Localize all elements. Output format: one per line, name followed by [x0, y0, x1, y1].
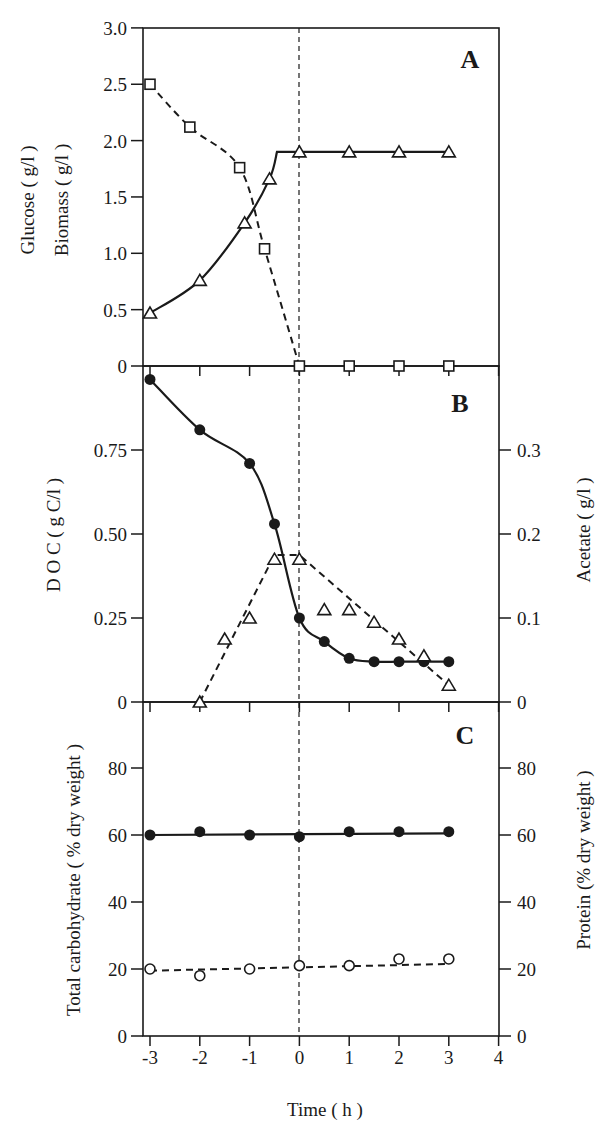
- open-square-marker: [294, 361, 304, 371]
- open-circle-marker: [245, 964, 255, 974]
- panel-frames: [143, 28, 499, 1036]
- filled-circle-marker: [443, 656, 454, 667]
- open-square-marker: [145, 79, 155, 89]
- y-tick-label-right: 0: [517, 1026, 527, 1047]
- y-tick-label-right: 0.2: [517, 524, 541, 545]
- open-square-marker: [185, 122, 195, 132]
- open-triangle-marker: [263, 173, 276, 184]
- filled-circle-marker: [194, 424, 205, 435]
- open-circle-marker: [294, 961, 304, 971]
- y-tick-label: 1.5: [103, 187, 127, 208]
- open-square-marker: [235, 163, 245, 173]
- open-circle-marker: [145, 964, 155, 974]
- panel-b-frame: [143, 366, 499, 702]
- panel-letter-a: A: [461, 45, 480, 74]
- y-tick-label: 2.0: [103, 131, 127, 152]
- panel-c-frame: [143, 702, 499, 1036]
- y-tick-label: 0: [118, 1026, 128, 1047]
- open-triangle-marker: [442, 679, 455, 690]
- open-circle-marker: [195, 971, 205, 981]
- filled-circle-marker: [394, 656, 405, 667]
- y-tick-label: 0.5: [103, 300, 127, 321]
- panel-a-ylabel-biomass: Biomass ( g/l ): [51, 144, 73, 256]
- filled-circle-marker: [344, 653, 355, 664]
- filled-circle-marker: [244, 458, 255, 469]
- y-tick-label: 20: [108, 959, 127, 980]
- y-tick-label: 80: [108, 758, 127, 779]
- figure: -3-2-10123400.51.01.52.02.53.000.250.500…: [0, 0, 608, 1134]
- panel-letter-c: C: [456, 721, 475, 750]
- filled-circle-marker: [394, 826, 405, 837]
- y-tick-label: 60: [108, 825, 127, 846]
- open-circle-marker: [344, 961, 354, 971]
- y-tick-label: 0: [118, 692, 128, 713]
- panel-c-ylabel-carbohydrate: Total carbohydrate ( % dry weight ): [63, 744, 85, 1016]
- filled-circle-marker: [443, 826, 454, 837]
- x-axis-label: Time ( h ): [287, 1099, 363, 1121]
- x-tick-label: 3: [444, 1047, 454, 1068]
- panel-b-ylabel-acetate: Acetate ( g/l ): [573, 478, 595, 583]
- open-triangle-marker: [417, 650, 430, 661]
- filled-circle-marker: [194, 826, 205, 837]
- open-triangle-marker: [218, 633, 231, 644]
- y-tick-label-right: 0.3: [517, 440, 541, 461]
- x-tick-label: 4: [494, 1047, 504, 1068]
- x-tick-label: -2: [192, 1047, 208, 1068]
- filled-circle-marker: [145, 374, 156, 385]
- acetate-line: [200, 555, 449, 702]
- panel-b-ylabel-doc: D O C ( g C/l ): [43, 478, 65, 592]
- open-square-marker: [260, 244, 270, 254]
- x-tick-label: 0: [295, 1047, 305, 1068]
- y-tick-label-right: 60: [517, 825, 536, 846]
- filled-circle-marker: [145, 830, 156, 841]
- y-tick-label-right: 20: [517, 959, 536, 980]
- filled-circle-marker: [369, 656, 380, 667]
- open-square-marker: [344, 361, 354, 371]
- y-tick-label: 1.0: [103, 243, 127, 264]
- filled-circle-marker: [319, 636, 330, 647]
- y-tick-label: 0: [118, 356, 128, 377]
- x-tick-label: -3: [142, 1047, 158, 1068]
- filled-circle-marker: [294, 613, 305, 624]
- y-tick-label-right: 40: [517, 892, 536, 913]
- x-tick-label: 1: [344, 1047, 354, 1068]
- open-circle-marker: [394, 954, 404, 964]
- filled-circle-marker: [344, 826, 355, 837]
- axis-ticks: -3-2-10123400.51.01.52.02.53.000.250.500…: [94, 18, 541, 1068]
- panel-c-ylabel-protein: Protein (% dry weight ): [573, 770, 595, 949]
- open-triangle-marker: [368, 616, 381, 627]
- y-tick-label: 0.50: [94, 524, 127, 545]
- glucose-line: [150, 84, 299, 366]
- y-tick-label: 3.0: [103, 18, 127, 39]
- y-tick-label-right: 0.1: [517, 608, 541, 629]
- open-square-marker: [394, 361, 404, 371]
- open-triangle-marker: [343, 604, 356, 615]
- x-tick-label: 2: [394, 1047, 404, 1068]
- y-tick-label: 40: [108, 892, 127, 913]
- panel-a-frame: [143, 28, 499, 366]
- filled-circle-marker: [244, 830, 255, 841]
- y-tick-label: 0.75: [94, 440, 127, 461]
- open-triangle-marker: [144, 307, 157, 318]
- y-tick-label-right: 0: [517, 692, 527, 713]
- y-tick-label-right: 80: [517, 758, 536, 779]
- y-tick-label: 2.5: [103, 74, 127, 95]
- open-triangle-marker: [318, 604, 331, 615]
- panel-a-ylabel-glucose: Glucose ( g/l ): [17, 145, 39, 254]
- panel-letter-b: B: [451, 389, 468, 418]
- filled-circle-marker: [294, 831, 305, 842]
- open-circle-marker: [444, 954, 454, 964]
- chart-svg: -3-2-10123400.51.01.52.02.53.000.250.500…: [0, 0, 608, 1134]
- filled-circle-marker: [269, 518, 280, 529]
- open-triangle-marker: [238, 217, 251, 228]
- x-tick-label: -1: [242, 1047, 258, 1068]
- data-series: [144, 79, 456, 980]
- y-tick-label: 0.25: [94, 608, 127, 629]
- open-square-marker: [444, 361, 454, 371]
